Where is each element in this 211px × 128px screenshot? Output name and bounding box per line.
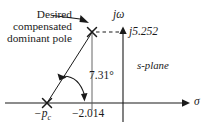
annotation-line-1: Desired	[0, 8, 72, 20]
angle-label: 7.31°	[89, 70, 114, 82]
jomega-axis-label: jω	[113, 9, 124, 21]
s-plane-label: s-plane	[137, 60, 169, 71]
annotation-line-3: dominant pole	[0, 32, 72, 44]
sigma-axis	[5, 99, 190, 107]
s-plane-figure: Desired compensated dominant pole jω j5.…	[0, 0, 211, 128]
annotation-text: Desired compensated dominant pole	[0, 8, 72, 44]
annotation-line-2: compensated	[0, 20, 72, 32]
compensator-pole-label-text: −p	[34, 107, 48, 119]
compensator-pole-label: −pc	[34, 108, 51, 122]
real-value-label: −2.014	[72, 108, 104, 120]
angle-arc-arrow	[58, 74, 88, 102]
compensator-pole-label-sub: c	[48, 113, 52, 122]
imag-value-label: j5.252	[129, 26, 158, 38]
jomega-axis	[119, 27, 126, 123]
s-plane-label-text: s-plane	[137, 59, 169, 71]
sigma-axis-label: σ	[194, 96, 200, 108]
